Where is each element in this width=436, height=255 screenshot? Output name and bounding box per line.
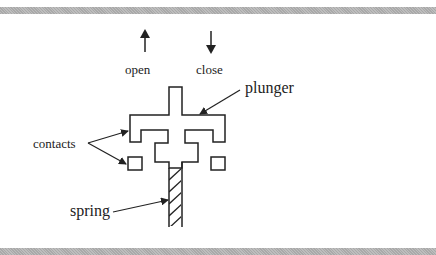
spring-shape [169,162,182,228]
contacts-label: contacts [33,137,76,150]
open-label: open [125,63,150,76]
right-contact [211,157,225,170]
contacts-leader-lower [88,143,126,164]
spring-label: spring [70,203,110,219]
plunger-label: plunger [245,80,294,96]
contacts-leader-upper [88,131,128,143]
plunger-shape [130,87,225,168]
plunger-leader [200,90,240,114]
close-label: close [196,63,223,76]
relay-diagram [0,0,436,255]
open-arrow-icon [140,29,150,52]
left-contact [128,157,142,170]
spring-leader [113,200,168,212]
close-arrow-icon [206,31,216,54]
